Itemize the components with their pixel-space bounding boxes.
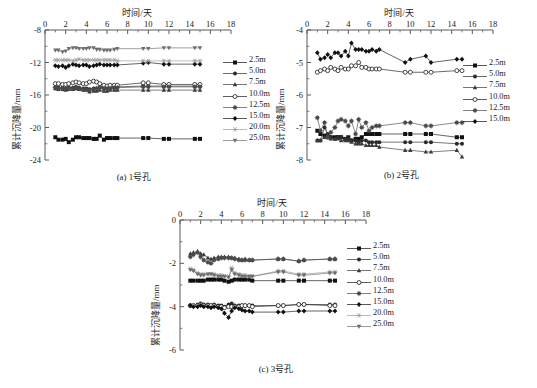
- legend-marker-icon: [222, 132, 248, 143]
- svg-text:12: 12: [427, 19, 436, 29]
- legend-item-12-5m[interactable]: 12.5m: [346, 285, 394, 296]
- svg-text:16: 16: [206, 19, 215, 29]
- legend-marker-icon: [462, 68, 488, 79]
- legend-item-5-0m[interactable]: 5.0m: [346, 251, 394, 262]
- legend-marker-icon: [346, 307, 372, 318]
- svg-text:0: 0: [305, 19, 309, 29]
- y-axis-title-b: 累计沉降量/mm: [274, 88, 287, 150]
- legend-item-25-0m[interactable]: 25.0m: [346, 318, 394, 329]
- legend-label: 20.0m: [373, 308, 394, 317]
- legend-label: 12.5m: [373, 286, 394, 295]
- x-axis-title-b: 时间/天: [306, 6, 492, 19]
- legend-label: 10.0m: [489, 92, 510, 101]
- chart-panel-a: 时间/天 累计沉降量/mm 024681012141618-8-12-16-20…: [0, 0, 268, 190]
- legend-a: 2.5m5.0m7.5m10.0m12.5m15.0m20.0m25.0m: [222, 54, 270, 144]
- legend-marker-icon: [222, 121, 248, 132]
- legend-marker-icon: [346, 318, 372, 329]
- legend-item-7-5m[interactable]: 7.5m: [462, 79, 510, 90]
- legend-marker-icon: [222, 99, 248, 110]
- legend-marker-icon: [346, 262, 372, 273]
- svg-text:-4: -4: [296, 25, 304, 35]
- svg-text:-4: -4: [169, 302, 177, 312]
- svg-text:10: 10: [406, 19, 415, 29]
- legend-item-7-5m[interactable]: 7.5m: [346, 262, 394, 273]
- svg-text:-8: -8: [34, 25, 41, 35]
- svg-text:4: 4: [219, 209, 224, 219]
- legend-marker-icon: [462, 79, 488, 90]
- svg-text:-6: -6: [169, 345, 176, 355]
- legend-label: 2.5m: [489, 58, 506, 67]
- svg-text:-16: -16: [30, 90, 41, 100]
- x-axis-title-a: 时间/天: [44, 6, 230, 19]
- legend-item-2-5m[interactable]: 2.5m: [462, 57, 510, 68]
- svg-text:14: 14: [447, 19, 456, 29]
- legend-item-25-0m[interactable]: 25.0m: [222, 132, 270, 143]
- legend-item-15-0m[interactable]: 15.0m: [222, 110, 270, 121]
- legend-label: 10.0m: [373, 275, 394, 284]
- legend-label: 12.5m: [489, 103, 510, 112]
- chart-panel-b: 时间/天 累计沉降量/mm 024681012141618-4-5-6-7-8 …: [266, 0, 537, 190]
- svg-text:16: 16: [341, 209, 350, 219]
- legend-label: 25.0m: [373, 319, 394, 328]
- legend-item-10-0m[interactable]: 10.0m: [222, 88, 270, 99]
- svg-text:0: 0: [178, 209, 182, 219]
- legend-label: 5.0m: [249, 66, 266, 75]
- legend-item-10-0m[interactable]: 10.0m: [462, 91, 510, 102]
- svg-text:18: 18: [362, 209, 371, 219]
- legend-item-2-5m[interactable]: 2.5m: [346, 240, 394, 251]
- legend-label: 5.0m: [489, 69, 506, 78]
- legend-label: 7.5m: [249, 77, 266, 86]
- legend-item-7-5m[interactable]: 7.5m: [222, 76, 270, 87]
- svg-text:4: 4: [346, 19, 351, 29]
- svg-text:2: 2: [199, 209, 203, 219]
- svg-text:12: 12: [300, 209, 309, 219]
- svg-text:4: 4: [84, 19, 89, 29]
- legend-label: 5.0m: [373, 252, 390, 261]
- legend-marker-icon: [346, 251, 372, 262]
- svg-text:-20: -20: [30, 123, 41, 133]
- legend-item-15-0m[interactable]: 15.0m: [462, 113, 510, 124]
- legend-marker-icon: [462, 113, 488, 124]
- legend-marker-icon: [222, 54, 248, 65]
- legend-marker-icon: [346, 240, 372, 251]
- legend-item-12-5m[interactable]: 12.5m: [222, 99, 270, 110]
- svg-text:0: 0: [172, 215, 176, 225]
- svg-text:6: 6: [105, 19, 109, 29]
- legend-marker-icon: [346, 274, 372, 285]
- legend-item-20-0m[interactable]: 20.0m: [222, 121, 270, 132]
- legend-marker-icon: [462, 102, 488, 113]
- svg-text:12: 12: [165, 19, 174, 29]
- svg-text:14: 14: [185, 19, 194, 29]
- legend-item-2-5m[interactable]: 2.5m: [222, 54, 270, 65]
- svg-text:-7: -7: [296, 123, 303, 133]
- svg-text:2: 2: [64, 19, 68, 29]
- svg-text:16: 16: [468, 19, 477, 29]
- svg-text:0: 0: [43, 19, 47, 29]
- legend-marker-icon: [222, 65, 248, 76]
- svg-text:-24: -24: [30, 155, 42, 165]
- plot-area-a: 024681012141618-8-12-16-20-24: [44, 29, 232, 161]
- legend-label: 7.5m: [489, 80, 506, 89]
- svg-text:-5: -5: [296, 58, 303, 68]
- y-axis-title-a: 累计沉降量/mm: [10, 88, 23, 150]
- legend-item-5-0m[interactable]: 5.0m: [462, 68, 510, 79]
- plot-area-c: 0246810121416180-2-4-6: [179, 219, 367, 351]
- svg-text:10: 10: [144, 19, 153, 29]
- x-axis-title-c: 时间/天: [179, 196, 365, 209]
- legend-item-20-0m[interactable]: 20.0m: [346, 307, 394, 318]
- legend-item-15-0m[interactable]: 15.0m: [346, 296, 394, 307]
- svg-text:-6: -6: [296, 90, 303, 100]
- caption-c: (c) 3号孔: [131, 362, 421, 375]
- legend-item-12-5m[interactable]: 12.5m: [462, 102, 510, 113]
- svg-text:14: 14: [320, 209, 329, 219]
- svg-text:2: 2: [326, 19, 330, 29]
- legend-label: 2.5m: [373, 241, 390, 250]
- legend-item-5-0m[interactable]: 5.0m: [222, 65, 270, 76]
- legend-label: 2.5m: [249, 55, 266, 64]
- svg-text:8: 8: [126, 19, 130, 29]
- legend-item-10-0m[interactable]: 10.0m: [346, 274, 394, 285]
- legend-c: 2.5m5.0m7.5m10.0m12.5m15.0m20.0m25.0m: [346, 240, 394, 330]
- legend-marker-icon: [222, 88, 248, 99]
- legend-marker-icon: [462, 57, 488, 68]
- caption-a: (a) 1号孔: [0, 170, 268, 183]
